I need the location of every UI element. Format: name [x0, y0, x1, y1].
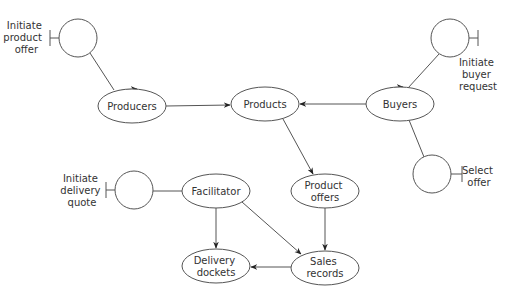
- interface-circle: [115, 171, 153, 209]
- entity-product-offers[interactable]: Product offers: [291, 174, 359, 208]
- edge-facilitator-sales-records: [242, 202, 301, 254]
- edge-initiate-buyer-request-buyers: [408, 54, 439, 88]
- interface-label: Select offer: [462, 165, 496, 188]
- entity-buyers[interactable]: Buyers: [366, 87, 434, 121]
- interface-initiate-product-offer[interactable]: Initiate product offer: [3, 19, 97, 57]
- entity-products[interactable]: Products: [231, 87, 299, 121]
- entity-label: Products: [243, 99, 286, 110]
- entity-label: Buyers: [383, 99, 418, 110]
- interface-label: Initiate product offer: [3, 20, 45, 55]
- entity-label: Facilitator: [192, 186, 242, 197]
- diagram-canvas: Initiate product offer Initiate buyer re…: [0, 0, 513, 297]
- entity-sales-records[interactable]: Sales records: [291, 251, 359, 285]
- edges: [90, 53, 439, 267]
- interface-initiate-delivery-quote[interactable]: Initiate delivery quote: [60, 171, 153, 209]
- entity-delivery-dockets[interactable]: Delivery dockets: [182, 249, 250, 283]
- interface-label: Initiate delivery quote: [60, 173, 103, 208]
- interface-select-offer[interactable]: Select offer: [413, 155, 496, 193]
- edge-initiate-product-offer-producers: [90, 53, 114, 90]
- entity-facilitator[interactable]: Facilitator: [182, 174, 250, 208]
- edge-buyers-select-offer: [409, 120, 424, 157]
- entity-label: Sales records: [306, 256, 343, 279]
- interface-circle: [431, 19, 469, 57]
- entity-label: Delivery dockets: [194, 255, 239, 278]
- edge-products-product-offers: [283, 119, 313, 174]
- edge-producers-products: [166, 105, 230, 106]
- interface-initiate-buyer-request[interactable]: Initiate buyer request: [431, 19, 497, 92]
- entity-producers[interactable]: Producers: [98, 89, 166, 123]
- interface-label: Initiate buyer request: [459, 57, 497, 92]
- interface-circle: [59, 19, 97, 57]
- interface-circle: [413, 155, 451, 193]
- entity-label: Producers: [107, 101, 157, 112]
